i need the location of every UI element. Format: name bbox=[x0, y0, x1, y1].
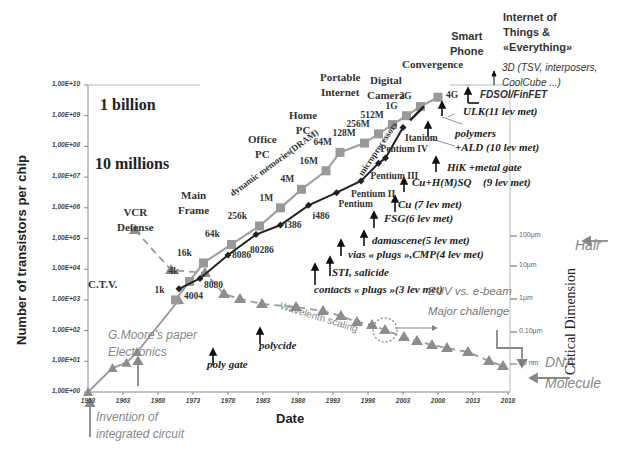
arrow-up-icon bbox=[86, 399, 94, 437]
y-tick-label: 1,00E+05 bbox=[22, 234, 80, 241]
y-tick-label: 1,00E+01 bbox=[22, 356, 80, 363]
x-tick-label: 1968 bbox=[143, 397, 173, 404]
dram-point-label: 256k bbox=[228, 211, 248, 221]
mpu-point-label: i486 bbox=[313, 211, 330, 221]
x-tick-label: 2008 bbox=[423, 397, 453, 404]
technology-label: Cu+H(M)SQ bbox=[412, 176, 471, 188]
technology-label: STI, salicide bbox=[332, 266, 389, 278]
mpu-point-label: Pentium IV bbox=[381, 144, 428, 154]
technology-label: CoolCube ...) bbox=[502, 77, 561, 88]
era-label-line: Phone bbox=[450, 44, 484, 59]
mpu-point-label: Itanium bbox=[405, 133, 438, 143]
y-axis-ticks bbox=[84, 85, 88, 392]
x-tick-label: 2018 bbox=[493, 397, 523, 404]
x-tick-label: 1958 bbox=[73, 397, 103, 404]
technology-label: damascene(5 lev met) bbox=[372, 234, 470, 246]
technology-label: vias « plugs »,CMP(4 lev met) bbox=[348, 248, 484, 260]
x-tick-label: 1998 bbox=[353, 397, 383, 404]
x-tick-label: 1978 bbox=[213, 397, 243, 404]
dram-point-label: 64M bbox=[314, 137, 332, 147]
era-label: MainFrame bbox=[178, 188, 209, 218]
note-label: Major challenge bbox=[428, 305, 509, 317]
y-axis-title: Number of transistors per chip bbox=[14, 155, 29, 345]
cd-tick-label: 100µm bbox=[519, 231, 541, 238]
note-label: Hair bbox=[575, 237, 601, 253]
arrow-up-icon bbox=[134, 357, 142, 386]
x-tick-label: 1973 bbox=[178, 397, 208, 404]
arrow-up-icon bbox=[312, 264, 318, 285]
era-label: C.T.V. bbox=[88, 277, 117, 292]
technology-label: 3D (TSV, interposers, bbox=[502, 62, 597, 73]
era-label-line: Internet bbox=[320, 85, 360, 100]
technology-label: FDSOI/FinFET bbox=[480, 89, 547, 100]
y-tick-label: 1,00E+09 bbox=[22, 111, 80, 118]
era-label: PortableInternet bbox=[320, 70, 360, 100]
x-tick-label: 1983 bbox=[248, 397, 278, 404]
era-label-line: Main bbox=[178, 188, 209, 203]
dram-point-label: 4G bbox=[446, 90, 458, 100]
y-tick-label: 1,00E+10 bbox=[22, 80, 80, 87]
cd-tick-label: 10 nm bbox=[519, 359, 538, 366]
scale-label: 1 billion bbox=[100, 96, 156, 114]
note-label: G.Moore's paper bbox=[108, 328, 197, 342]
cd-tick-label: 1µm bbox=[519, 294, 533, 301]
technology-label: contacts « plugs »(3 lev met) bbox=[314, 283, 443, 295]
technology-label: ULK(11 lev met) bbox=[463, 105, 538, 117]
note-label: Invention of bbox=[96, 410, 158, 424]
mpu-point-label: Pentium bbox=[339, 199, 373, 209]
mpu-point-label: 8086 bbox=[232, 250, 251, 260]
era-label-line: Smart bbox=[450, 29, 484, 44]
x-tick-label: 2013 bbox=[458, 397, 488, 404]
critical-dimension-ticks bbox=[510, 236, 517, 364]
arrow-up-icon bbox=[371, 212, 377, 228]
x-tick-label: 1988 bbox=[283, 397, 313, 404]
dram-point-label: 256M bbox=[347, 119, 370, 129]
mpu-point-label: 8080 bbox=[204, 280, 223, 290]
y2-axis-title: Critical Dimension bbox=[563, 268, 579, 375]
technology-label: poly gate bbox=[207, 358, 248, 370]
technology-label: Cu (7 lev met) bbox=[398, 198, 462, 210]
arrow-up-icon bbox=[433, 157, 439, 172]
era-label: DigitalCamera bbox=[367, 73, 405, 103]
era-label-line: Defense bbox=[117, 220, 154, 235]
x-axis-title: Date bbox=[276, 411, 304, 426]
era-label-line: Portable bbox=[320, 70, 360, 85]
technology-label: FSG(6 lev met) bbox=[384, 212, 453, 224]
mpu-point-label: 4004 bbox=[184, 291, 203, 301]
y-tick-label: 1,00E+07 bbox=[22, 172, 80, 179]
era-label-line: VCR bbox=[117, 205, 154, 220]
y-tick-label: 1,00E+06 bbox=[22, 203, 80, 210]
era-label: VCRDefense bbox=[117, 205, 154, 235]
arrow-up-icon bbox=[439, 102, 445, 116]
dram-point-label: 128M bbox=[333, 128, 356, 138]
technology-label: polymers bbox=[455, 127, 496, 139]
era-label: Convergence bbox=[402, 57, 463, 72]
era-label-line: Camera bbox=[367, 88, 405, 103]
era-label-line: Frame bbox=[178, 203, 209, 218]
dram-point-label: 1M bbox=[260, 193, 274, 203]
arrow-up-icon bbox=[492, 71, 496, 85]
era-label-line: «Everything» bbox=[503, 40, 572, 55]
era-label-line: Home bbox=[289, 108, 317, 123]
era-label-line: C.T.V. bbox=[88, 277, 117, 292]
technology-label: HiK +metal gate bbox=[447, 161, 522, 173]
era-label-line: Office bbox=[248, 132, 277, 147]
arrow-up-icon bbox=[465, 88, 479, 103]
dram-point-label: 4M bbox=[281, 174, 295, 184]
y-tick-label: 1,00E+00 bbox=[22, 387, 80, 394]
era-label: Internet ofThings &«Everything» bbox=[503, 10, 572, 55]
y-tick-label: 1,00E+04 bbox=[22, 264, 80, 271]
dram-point-label: 16M bbox=[300, 156, 318, 166]
note-label: Molecule bbox=[545, 375, 601, 391]
era-label-line: Internet of bbox=[503, 10, 572, 25]
x-tick-label: 1963 bbox=[108, 397, 138, 404]
note-label: integrated circuit bbox=[96, 427, 184, 441]
arrowhead-icon bbox=[432, 325, 438, 331]
cd-tick-label: 0,10µm bbox=[519, 327, 543, 334]
dram-point-label: 16k bbox=[177, 248, 192, 258]
x-tick-label: 2003 bbox=[388, 397, 418, 404]
era-label: SmartPhone bbox=[450, 29, 484, 59]
technology-label: polycide bbox=[259, 339, 296, 351]
y-tick-label: 1,00E+02 bbox=[22, 326, 80, 333]
dram-point-label: 64k bbox=[205, 229, 220, 239]
